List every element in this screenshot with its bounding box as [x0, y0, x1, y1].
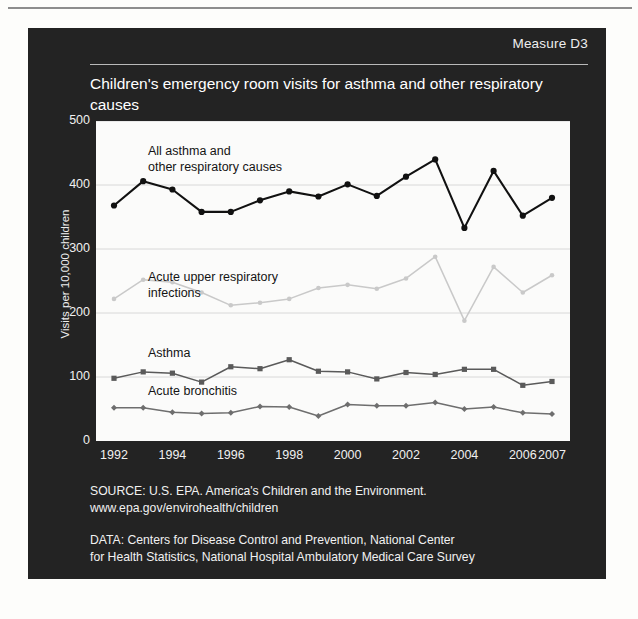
y-tick-100: 100 — [48, 369, 90, 383]
data-point — [345, 402, 351, 408]
data-point — [403, 370, 408, 375]
page-top-rule — [8, 7, 632, 9]
measure-divider — [90, 64, 588, 65]
x-tick-1994: 1994 — [158, 448, 186, 462]
data-note: DATA: Centers for Disease Control and Pr… — [90, 532, 590, 567]
measure-label: Measure D3 — [512, 36, 588, 51]
source-line-2: www.epa.gov/envirohealth/children — [90, 500, 590, 517]
data-point — [286, 188, 292, 194]
data-line-2: for Health Statistics, National Hospital… — [90, 549, 590, 566]
data-point — [257, 197, 263, 203]
data-point — [229, 303, 234, 308]
data-point — [491, 367, 496, 372]
x-tick-2002: 2002 — [392, 448, 420, 462]
data-point — [228, 410, 234, 416]
x-tick-2004: 2004 — [450, 448, 478, 462]
data-point — [141, 277, 146, 282]
data-point — [374, 193, 380, 199]
series-line — [114, 360, 552, 386]
data-point — [140, 178, 146, 184]
data-point — [374, 403, 380, 409]
data-point — [549, 411, 555, 417]
data-point — [549, 195, 555, 201]
data-point — [520, 383, 525, 388]
series-annotation-3: Acute bronchitis — [148, 383, 237, 399]
source-line-1: SOURCE: U.S. EPA. America's Children and… — [90, 483, 590, 500]
data-point — [461, 406, 467, 412]
data-line-1: DATA: Centers for Disease Control and Pr… — [90, 532, 590, 549]
data-point — [141, 369, 146, 374]
chart-title: Children's emergency room visits for ast… — [90, 74, 590, 115]
series-annotation-2: Asthma — [148, 345, 190, 361]
data-point — [403, 174, 409, 180]
data-point — [404, 276, 409, 281]
figure-panel: Measure D3 Children's emergency room vis… — [28, 28, 606, 579]
y-tick-0: 0 — [48, 433, 90, 447]
data-point — [169, 186, 175, 192]
data-point — [345, 369, 350, 374]
data-point — [111, 376, 116, 381]
data-point — [199, 410, 205, 416]
x-tick-2007: 2007 — [538, 448, 566, 462]
data-point — [257, 366, 262, 371]
data-point — [550, 273, 555, 278]
x-tick-1996: 1996 — [217, 448, 245, 462]
x-tick-1992: 1992 — [100, 448, 128, 462]
data-point — [433, 372, 438, 377]
y-tick-500: 500 — [48, 113, 90, 127]
y-axis-title: Visits per 10,000 children — [59, 174, 71, 374]
plot-area-wrapper: All asthma and other respiratory causesA… — [96, 121, 570, 441]
data-point — [315, 193, 321, 199]
data-point — [315, 413, 321, 419]
data-point — [169, 409, 175, 415]
data-point — [112, 297, 117, 302]
data-point — [140, 405, 146, 411]
data-point — [111, 202, 117, 208]
data-point — [520, 410, 526, 416]
data-point — [228, 209, 234, 215]
data-point — [316, 286, 321, 291]
data-point — [111, 405, 117, 411]
data-point — [521, 290, 526, 295]
scanned-page: Measure D3 Children's emergency room vis… — [0, 0, 638, 619]
data-point — [491, 404, 497, 410]
y-tick-200: 200 — [48, 305, 90, 319]
data-point — [170, 371, 175, 376]
data-point — [491, 168, 497, 174]
data-point — [491, 265, 496, 270]
x-tick-1998: 1998 — [275, 448, 303, 462]
data-point — [345, 283, 350, 288]
data-point — [432, 400, 438, 406]
x-tick-2006: 2006 — [509, 448, 537, 462]
y-tick-300: 300 — [48, 241, 90, 255]
data-point — [403, 403, 409, 409]
data-point — [228, 364, 233, 369]
data-point — [287, 297, 292, 302]
data-point — [345, 181, 351, 187]
data-point — [462, 367, 467, 372]
data-point — [199, 209, 205, 215]
source-note: SOURCE: U.S. EPA. America's Children and… — [90, 483, 590, 518]
data-point — [375, 286, 380, 291]
footer-notes: SOURCE: U.S. EPA. America's Children and… — [90, 483, 590, 566]
data-point — [461, 225, 467, 231]
data-point — [520, 213, 526, 219]
x-tick-2000: 2000 — [334, 448, 362, 462]
series-line — [114, 403, 552, 416]
y-tick-400: 400 — [48, 177, 90, 191]
series-3 — [111, 400, 555, 419]
data-point — [316, 369, 321, 374]
data-point — [549, 379, 554, 384]
data-point — [433, 254, 438, 259]
x-axis-tick-labels: 199219941996199820002002200420062007 — [96, 448, 570, 468]
data-point — [257, 403, 263, 409]
data-point — [432, 156, 438, 162]
series-annotation-0: All asthma and other respiratory causes — [148, 143, 282, 176]
data-point — [462, 318, 467, 323]
data-point — [374, 376, 379, 381]
data-point — [286, 404, 292, 410]
data-point — [287, 357, 292, 362]
series-annotation-1: Acute upper respiratory infections — [148, 269, 278, 302]
